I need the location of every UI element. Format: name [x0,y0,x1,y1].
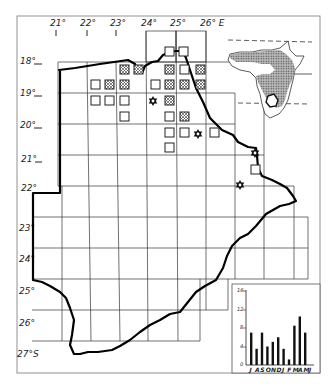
month-label: D [277,366,282,373]
bar [261,333,263,365]
svg-text:0: 0 [240,361,243,367]
svg-text:21°: 21° [21,154,37,164]
longitude-labels: 21° 22° 23° 24° 25° 26° E [50,18,225,36]
svg-text:23°: 23° [110,18,126,28]
svg-text:24°: 24° [141,18,157,28]
latitude-labels: 18° 19° 20° 21° 22° 23° 24° 25° 26° 27°S [17,56,42,359]
month-label: A [297,366,303,373]
bar [255,349,257,365]
month-label: N [271,366,276,373]
svg-text:16: 16 [237,287,243,293]
month-label: S [260,366,264,373]
svg-text:25°: 25° [170,18,186,28]
svg-text:25°: 25° [19,286,35,296]
month-label: A [254,366,260,373]
svg-text:21°: 21° [50,18,66,28]
svg-text:18°: 18° [20,56,36,66]
svg-text:12: 12 [237,306,243,312]
africa-inset [228,40,312,118]
svg-text:26° E: 26° E [200,18,225,28]
bar [304,333,306,365]
svg-text:20°: 20° [20,120,36,130]
bar [288,359,290,365]
month-labels: JASONDJFMAMJ [249,366,312,374]
svg-text:22°: 22° [80,18,96,28]
svg-text:4: 4 [240,343,243,349]
svg-text:26°: 26° [19,318,35,328]
bar [293,326,295,365]
monthly-bar-chart: 16 12 8 4 0 JASONDJFMAMJ [232,284,320,374]
svg-text:8: 8 [240,324,243,330]
bar [266,347,268,366]
bar [250,333,252,365]
svg-text:27°S: 27°S [17,349,39,359]
bar [277,337,279,365]
distribution-map: 21° 22° 23° 24° 25° 26° E 18° 19° 20° 21… [0,0,336,390]
bar [282,349,284,365]
svg-text:22°: 22° [21,183,37,193]
bar [299,316,301,365]
month-label: O [266,366,271,373]
bar [272,342,274,365]
svg-text:19°: 19° [20,88,36,98]
